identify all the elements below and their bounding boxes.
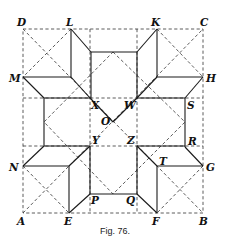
label-q: Q bbox=[126, 194, 135, 206]
label-e: E bbox=[63, 215, 73, 227]
label-s: S bbox=[187, 99, 195, 111]
label-k: K bbox=[150, 16, 161, 28]
geometry-figure: D L K C M H X W S O Y Z R N T G P Q A E … bbox=[0, 0, 228, 248]
label-m: M bbox=[8, 72, 21, 84]
label-n: N bbox=[8, 161, 19, 173]
label-o: O bbox=[101, 115, 111, 127]
label-b: B bbox=[198, 215, 208, 227]
label-r: R bbox=[187, 135, 197, 147]
figure-caption: Fig. 76. bbox=[100, 226, 130, 236]
label-h: H bbox=[205, 72, 217, 84]
label-l: L bbox=[65, 16, 73, 28]
label-a: A bbox=[16, 215, 25, 227]
label-t: T bbox=[159, 155, 168, 167]
label-w: W bbox=[124, 99, 137, 111]
label-c: C bbox=[200, 16, 209, 28]
dashed-construction-lines bbox=[23, 29, 203, 213]
label-f: F bbox=[151, 215, 161, 227]
dash-ne bbox=[23, 166, 69, 213]
dash-lm bbox=[23, 29, 71, 77]
label-x: X bbox=[90, 99, 100, 111]
label-p: P bbox=[90, 194, 100, 206]
label-y: Y bbox=[92, 134, 101, 146]
label-d: D bbox=[16, 16, 27, 28]
label-g: G bbox=[206, 161, 215, 173]
label-z: Z bbox=[126, 134, 135, 146]
